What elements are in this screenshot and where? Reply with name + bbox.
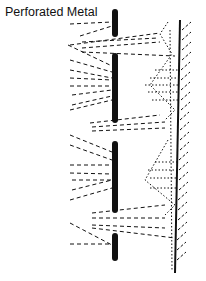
sound-paths (68, 22, 175, 245)
wall (175, 20, 191, 273)
resonance-zones (145, 22, 178, 270)
acoustic-diagram (0, 0, 206, 281)
